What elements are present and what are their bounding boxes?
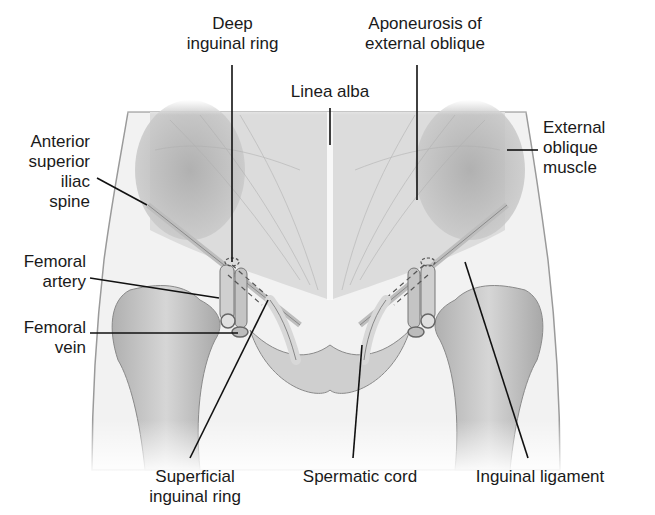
label-spermatic-cord: Spermatic cord (285, 467, 435, 487)
label-linea-alba: Linea alba (270, 82, 390, 102)
label-femoral-vein: Femoral vein (0, 318, 86, 358)
label-inguinal-ligament: Inguinal ligament (460, 467, 620, 487)
label-external-oblique-muscle: External oblique muscle (543, 118, 653, 178)
label-femoral-artery: Femoral artery (0, 252, 86, 292)
label-superficial-inguinal-ring: Superficial inguinal ring (125, 467, 265, 507)
label-deep-inguinal-ring: Deep inguinal ring (170, 14, 295, 54)
label-anterior-superior-iliac-spine: Anterior superior iliac spine (0, 132, 90, 212)
label-aponeurosis-external-oblique: Aponeurosis of external oblique (350, 14, 500, 54)
inguinal-region-illustration (0, 0, 655, 515)
